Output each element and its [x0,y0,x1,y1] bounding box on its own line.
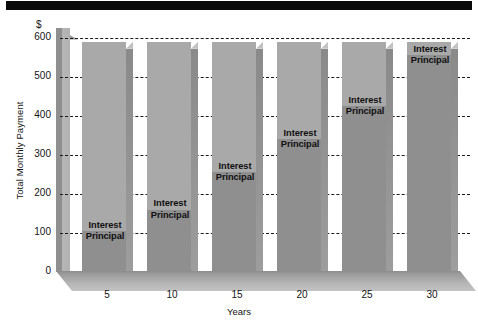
x-tick-label: 20 [282,289,322,300]
bar-segment-interest [82,42,126,231]
y-axis-tick-labels: 6005004003002001000 [11,0,51,326]
bar-segment-principal [342,106,386,272]
x-tick-label: 15 [217,289,257,300]
bar-side-face [126,49,133,272]
bar-segment-principal [407,55,451,272]
bar-face [212,42,256,272]
bar-segment-interest [212,42,256,173]
x-axis-title: Years [0,306,478,317]
bar-10-years[interactable]: InterestPrincipal [147,42,191,272]
bar-side-face [191,49,198,272]
bar-top-face [451,42,458,49]
bar-20-years[interactable]: InterestPrincipal [277,42,321,272]
y-tick-label: 300 [17,148,51,159]
bar-face [82,42,126,272]
bar-segment-principal [82,231,126,272]
bar-segment-interest [147,42,191,210]
bar-top-face [191,42,198,49]
y-tick-label: 200 [17,187,51,198]
y-tick-label: 100 [17,226,51,237]
bar-segment-principal [277,139,321,272]
bar-5-years[interactable]: InterestPrincipal [82,42,126,272]
y-tick-label: 400 [17,109,51,120]
bar-top-face [386,42,393,49]
bar-side-face [321,49,328,272]
bar-side-face [451,49,458,272]
bar-15-years[interactable]: InterestPrincipal [212,42,256,272]
plot-area: InterestPrincipalInterestPrincipalIntere… [56,28,460,272]
back-wall [56,28,70,272]
y-tick-label: 0 [17,265,51,276]
bar-segment-interest [407,42,451,56]
bar-segment-interest [342,42,386,106]
x-tick-label: 25 [347,289,387,300]
x-tick-label: 5 [87,289,127,300]
gridline [60,38,470,39]
bar-segment-principal [147,210,191,272]
bar-face [147,42,191,272]
y-tick-label: 500 [17,70,51,81]
bar-top-face [321,42,328,49]
bar-face [277,42,321,272]
bar-top-face [126,42,133,49]
x-tick-label: 30 [412,289,452,300]
x-tick-label: 10 [152,289,192,300]
y-tick-label: 600 [17,31,51,42]
bar-segment-interest [277,42,321,140]
chart-figure: Total Monthly Payment $ 6005004003002001… [0,0,478,326]
bar-face [407,42,451,272]
floor-plane [56,271,476,291]
bar-face [342,42,386,272]
bar-side-face [256,49,263,272]
bar-25-years[interactable]: InterestPrincipal [342,42,386,272]
bar-segment-principal [212,172,256,272]
bar-top-face [256,42,263,49]
bar-side-face [386,49,393,272]
bar-30-years[interactable]: InterestPrincipal [407,42,451,272]
top-rule-divider [6,1,472,10]
